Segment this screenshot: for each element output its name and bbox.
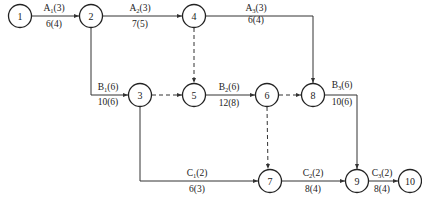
node-8-label: 8: [311, 90, 316, 101]
activity-B1-cost: 10(6): [98, 97, 119, 108]
network-diagram: 1 2 3 4 5 6 7 8 9 10 A1(3) 6(4) A2(3) 7(…: [0, 0, 422, 198]
activity-B1-name: B1(6): [98, 82, 119, 93]
activity-A1-cost: 6(4): [46, 19, 62, 30]
activity-C3-name: C3(2): [372, 168, 393, 179]
activity-C2-cost: 8(4): [305, 184, 321, 195]
arrow-4-8: [206, 16, 313, 83]
node-5-label: 5: [192, 90, 197, 101]
activity-A2-cost: 7(5): [132, 19, 148, 30]
dummy-6-7: [267, 107, 268, 169]
node-6-label: 6: [265, 90, 270, 101]
node-3-label: 3: [138, 90, 143, 101]
activity-B2-cost: 12(8): [219, 98, 240, 109]
activity-A2-name: A2(3): [129, 3, 150, 14]
node-9-label: 9: [355, 176, 360, 187]
activity-B2-name: B2(6): [219, 82, 240, 93]
activity-A3-cost: 6(4): [248, 15, 264, 26]
activity-A3-name: A3(3): [245, 3, 266, 14]
node-10-label: 10: [405, 176, 415, 187]
node-labels: 1 2 3 4 5 6 7 8 9 10: [18, 11, 416, 187]
node-7-label: 7: [268, 176, 273, 187]
activity-labels: A1(3) 6(4) A2(3) 7(5) A3(3) 6(4) B1(6) 1…: [43, 3, 392, 195]
node-2-label: 2: [89, 11, 94, 22]
activity-C3-cost: 8(4): [374, 184, 390, 195]
nodes: [9, 5, 422, 193]
activity-A1-name: A1(3): [43, 3, 64, 14]
activity-C1-cost: 6(3): [189, 184, 205, 195]
activity-C2-name: C2(2): [303, 168, 324, 179]
activity-B3-cost: 10(6): [332, 97, 353, 108]
activity-C1-name: C1(2): [187, 168, 208, 179]
node-4-label: 4: [192, 11, 197, 22]
node-1-label: 1: [18, 11, 23, 22]
activity-B3-name: B3(6): [332, 80, 353, 91]
